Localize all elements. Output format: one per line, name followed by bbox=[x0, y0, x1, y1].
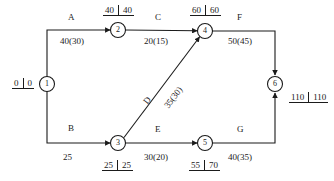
node-label-2: 2 bbox=[110, 26, 126, 34]
edge-label-a-duration: 40(30) bbox=[60, 36, 84, 46]
time-box-2-early: 40 bbox=[103, 5, 116, 15]
time-box-3-late: 25 bbox=[120, 160, 133, 170]
time-box-node-4: 60 60 bbox=[190, 5, 221, 16]
time-box-2-late: 40 bbox=[121, 5, 134, 15]
edge-g-path[interactable] bbox=[213, 93, 276, 143]
time-box-6-early: 110 bbox=[289, 92, 306, 102]
time-box-node-1: 0 0 bbox=[12, 78, 34, 89]
edge-label-e-name: E bbox=[155, 124, 161, 134]
time-box-3-early: 25 bbox=[102, 160, 115, 170]
edge-label-b-name: B bbox=[68, 123, 74, 133]
time-box-node-3: 25 25 bbox=[102, 160, 133, 171]
time-box-node-5: 55 70 bbox=[189, 160, 220, 171]
edge-d-path[interactable] bbox=[124, 37, 200, 138]
network-diagram-canvas: 1 2 3 4 5 6 A 40(30) B 25 C 20(15) D 35(… bbox=[0, 0, 334, 181]
time-box-node-6: 110 110 bbox=[289, 92, 328, 103]
time-box-node-2: 40 40 bbox=[103, 5, 134, 16]
time-box-2-divider bbox=[118, 5, 119, 15]
node-label-1: 1 bbox=[39, 80, 55, 88]
time-box-5-divider bbox=[204, 160, 205, 170]
edge-label-a-name: A bbox=[68, 12, 75, 22]
node-label-4: 4 bbox=[197, 27, 213, 35]
time-box-1-late: 0 bbox=[26, 78, 35, 88]
time-box-6-divider bbox=[308, 92, 309, 102]
time-box-5-early: 55 bbox=[189, 160, 202, 170]
time-box-4-divider bbox=[205, 5, 206, 15]
node-label-5: 5 bbox=[197, 139, 213, 147]
time-box-1-divider bbox=[23, 78, 24, 88]
time-box-1-early: 0 bbox=[12, 78, 21, 88]
edge-b-path[interactable] bbox=[47, 92, 110, 144]
edge-label-e-duration: 30(20) bbox=[144, 152, 168, 162]
time-box-3-divider bbox=[117, 160, 118, 170]
edge-label-c-duration: 20(15) bbox=[144, 36, 168, 46]
edge-label-c-name: C bbox=[155, 12, 161, 22]
time-box-6-late: 110 bbox=[311, 92, 328, 102]
time-box-4-early: 60 bbox=[190, 5, 203, 15]
edge-label-g-name: G bbox=[237, 124, 244, 134]
node-label-3: 3 bbox=[110, 139, 126, 147]
edge-label-f-name: F bbox=[237, 12, 242, 22]
time-box-4-late: 60 bbox=[208, 5, 221, 15]
edge-label-g-duration: 40(35) bbox=[228, 152, 252, 162]
edge-label-b-duration: 25 bbox=[63, 152, 72, 162]
time-box-5-late: 70 bbox=[207, 160, 220, 170]
node-label-6: 6 bbox=[267, 80, 283, 88]
edge-label-f-duration: 50(45) bbox=[228, 36, 252, 46]
edge-c-path[interactable] bbox=[126, 30, 198, 31]
